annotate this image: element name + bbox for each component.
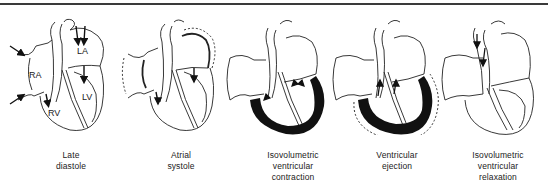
caption-late-diastole: Late diastole (16, 150, 126, 172)
caption-isovolumetric-relaxation: Isovolumetric ventricular relaxation (443, 150, 549, 183)
heart-diagram-icon (220, 10, 330, 135)
top-rule (0, 3, 548, 5)
heart-diagram-icon (439, 10, 549, 135)
heart-late-diastole: RA LA RV LV (0, 10, 110, 135)
heart-diagram-icon (110, 10, 220, 135)
heart-diagram-icon: RA LA RV LV (0, 10, 110, 135)
heart-atrial-systole (110, 10, 220, 135)
label-lv: LV (82, 92, 92, 102)
heart-isovolumetric-contraction (220, 10, 330, 135)
caption-ventricular-ejection: Ventricular ejection (342, 150, 452, 172)
heart-diagram-icon (330, 10, 440, 135)
label-la: LA (77, 46, 88, 56)
caption-isovolumetric-contraction: Isovolumetric ventricular contraction (238, 150, 348, 183)
label-ra: RA (29, 70, 42, 80)
caption-atrial-systole: Atrial systole (126, 150, 236, 172)
heart-isovolumetric-relaxation (439, 10, 549, 135)
heart-ventricular-ejection (330, 10, 440, 135)
label-rv: RV (48, 108, 60, 118)
